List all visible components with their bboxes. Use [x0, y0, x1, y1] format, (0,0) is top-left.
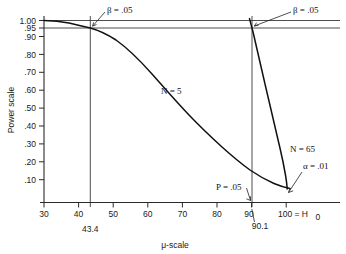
y-axis-title: Power scale: [6, 87, 16, 134]
axes: [40, 16, 340, 203]
y-tick-label-0-40: .40: [24, 121, 36, 131]
curve-n5: [44, 20, 290, 188]
annotation-beta-left-leader: [93, 12, 105, 26]
series-label-n5: N = 5: [161, 86, 182, 96]
annotation-p-value: P = .05: [216, 182, 251, 201]
x-tick-label-100-subscript: 0: [316, 212, 321, 222]
annotation-alpha-label: α = .01: [303, 161, 329, 171]
y-tick-label-0-30: .30: [24, 139, 36, 149]
curve-n65: [250, 19, 288, 189]
annotation-alpha-leader: [289, 172, 303, 193]
reference-lines-vertical: [90, 16, 252, 207]
marker-label-90-1: 90.1: [252, 221, 269, 231]
y-tick-label-0-70: .70: [24, 67, 36, 77]
x-axis-title: μ-scale: [161, 240, 189, 250]
y-tick-label-0-90: .90: [24, 32, 36, 42]
y-axis-tick-labels: 1.00 .95 .90 .80 .70 .60 .50 .40 .30 .20…: [19, 16, 36, 185]
y-tick-label-0-20: .20: [24, 157, 36, 167]
marker-label-43-4: 43.4: [82, 224, 99, 234]
power-curve-figure: 1.00 .95 .90 .80 .70 .60 .50 .40 .30 .20…: [0, 0, 346, 254]
x-tick-label-100-h0: 100 = H 0: [278, 209, 321, 222]
annotation-beta-right-label: β = .05: [293, 5, 319, 15]
annotation-beta-left-label: β = .05: [107, 5, 133, 15]
y-axis-ticks: [39, 21, 44, 180]
annotation-p-value-leader: [247, 188, 251, 201]
x-tick-label-80: 80: [212, 209, 222, 219]
annotation-beta-right-leader: [254, 12, 291, 26]
annotation-beta-right: β = .05: [254, 5, 319, 26]
y-tick-label-0-80: .80: [24, 50, 36, 60]
y-tick-label-0-10: .10: [24, 175, 36, 185]
annotation-beta-left: β = .05: [93, 5, 133, 26]
x-tick-label-30: 30: [39, 209, 49, 219]
x-axis-tick-labels: 30 40 50 60 70 80 90 100 = H 0: [39, 209, 320, 222]
x-tick-label-60: 60: [143, 209, 153, 219]
annotation-p-value-label: P = .05: [216, 182, 242, 192]
y-tick-label-0-60: .60: [24, 85, 36, 95]
chart-canvas: 1.00 .95 .90 .80 .70 .60 .50 .40 .30 .20…: [0, 0, 346, 254]
series-label-n65: N = 65: [290, 144, 316, 154]
x-tick-label-50: 50: [108, 209, 118, 219]
x-axis-ticks: [44, 203, 286, 208]
x-tick-label-100-text: 100 = H: [278, 209, 308, 219]
y-tick-label-0-50: .50: [24, 103, 36, 113]
annotation-alpha: α = .01: [289, 161, 329, 193]
x-tick-label-70: 70: [178, 209, 188, 219]
x-tick-label-40: 40: [74, 209, 84, 219]
